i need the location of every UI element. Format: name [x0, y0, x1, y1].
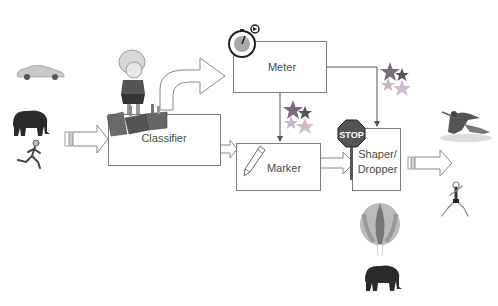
classifier-label: Classifier — [139, 131, 189, 145]
input-arrow — [65, 125, 108, 153]
meter-label: Meter — [254, 60, 310, 74]
classifier-to-meter-arrow — [160, 58, 225, 110]
meter-to-shaper-line — [326, 67, 377, 126]
meter-box: Meter — [233, 41, 327, 93]
shaper-label-line2: Dropper — [353, 162, 402, 176]
output-arrow — [408, 150, 452, 176]
classifier-to-marker-arrow — [220, 140, 237, 158]
classifier-box: Classifier — [108, 114, 221, 166]
shaper-dropper-box: Shaper/ Dropper — [352, 128, 401, 191]
marker-box: Marker — [236, 143, 321, 191]
shaper-label-line1: Shaper/ — [355, 147, 400, 161]
marker-to-shaper-arrow — [320, 152, 354, 174]
marker-label: Marker — [259, 161, 309, 175]
traffic-conditioning-diagram: Classifier Meter Marker Shaper/ Dropper — [0, 0, 498, 306]
